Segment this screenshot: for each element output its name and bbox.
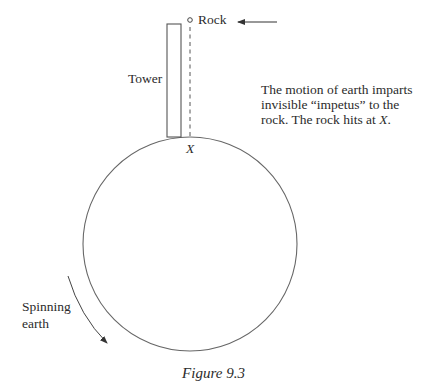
- figure-canvas: Rock Tower X The motion of earth imparts…: [0, 0, 421, 391]
- figure-caption: Figure 9.3: [0, 366, 421, 381]
- spinning-earth-label: Spinning earth: [22, 298, 71, 332]
- tower-label: Tower: [128, 71, 162, 86]
- tower-shape: [167, 24, 181, 137]
- rock-icon: [188, 18, 193, 23]
- explanation-line-3-suffix: .: [387, 112, 390, 127]
- explanation-text: The motion of earth imparts invisible “i…: [261, 82, 421, 127]
- explanation-line-1: The motion of earth imparts: [261, 82, 412, 97]
- diagram-graphics: [0, 0, 421, 391]
- spin-label-line-2: earth: [22, 316, 49, 331]
- explanation-line-2: invisible “impetus” to the: [261, 97, 399, 112]
- spin-label-line-1: Spinning: [22, 299, 71, 314]
- earth-circle: [83, 137, 297, 351]
- spin-arrow-icon: [68, 276, 107, 343]
- explanation-line-3-prefix: rock. The rock hits at: [261, 112, 379, 127]
- impact-point-label: X: [186, 141, 194, 156]
- rock-label: Rock: [198, 12, 227, 27]
